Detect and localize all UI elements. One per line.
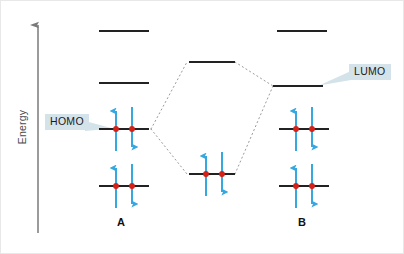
fragment-a-levels <box>99 31 149 208</box>
lumo-callout-label: LUMO <box>349 64 391 80</box>
fragment-B-level-4 <box>279 164 329 208</box>
combined-bonding <box>189 152 235 196</box>
correlation-line-a-bonding <box>151 129 187 174</box>
lumo-pointer-tail <box>319 71 351 86</box>
fragment-b-levels <box>273 31 329 208</box>
homo-callout-label: HOMO <box>45 114 89 130</box>
fragment-label-b: B <box>298 216 306 228</box>
mo-diagram-figure: Energy HOMO LUMO A B <box>0 0 404 254</box>
electron-dot <box>309 183 315 189</box>
correlation-lines <box>151 62 273 174</box>
fragment-A-level-4 <box>99 164 149 208</box>
electron-dot <box>113 183 119 189</box>
energy-axis-label: Energy <box>16 97 28 157</box>
electron-dot <box>309 126 315 132</box>
electron-dot <box>219 171 225 177</box>
correlation-line-b-antibonding <box>235 62 273 86</box>
correlation-line-a-antibonding <box>151 62 187 129</box>
electron-dot <box>293 183 299 189</box>
electron-dot <box>203 171 209 177</box>
correlation-line-b-bonding <box>235 86 273 174</box>
electron-dot <box>129 126 135 132</box>
electron-dot <box>129 183 135 189</box>
electron-dot <box>293 126 299 132</box>
fragment-label-a: A <box>117 216 125 228</box>
combined-levels <box>189 62 235 196</box>
fragment-B-level-3 <box>279 107 329 151</box>
electron-dot <box>113 126 119 132</box>
fragment-A-level-3 <box>99 107 149 151</box>
